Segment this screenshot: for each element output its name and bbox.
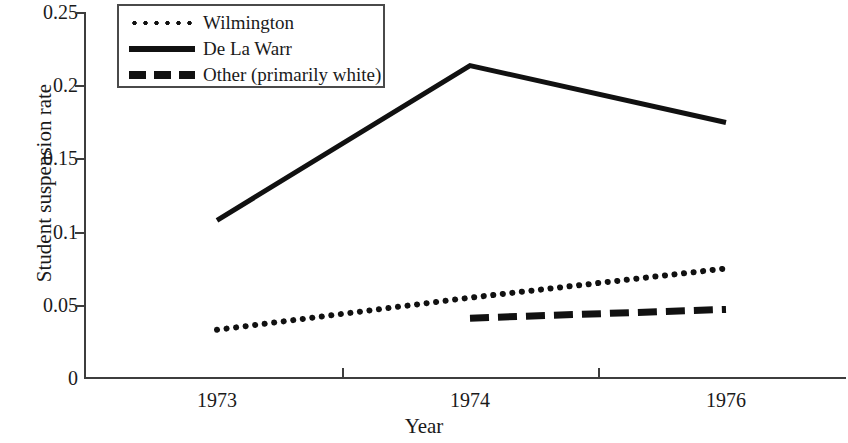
legend-entry-wilmington: Wilmington bbox=[129, 10, 383, 36]
series-line-de-la-warr bbox=[217, 66, 726, 221]
dotted-line-swatch-icon bbox=[129, 17, 195, 29]
legend-entry-de-la-warr: De La Warr bbox=[129, 36, 383, 62]
legend-label-other: Other (primarily white) bbox=[203, 64, 381, 86]
legend-label-de-la-warr: De La Warr bbox=[203, 38, 292, 60]
solid-line-swatch-icon bbox=[129, 46, 195, 52]
chart-figure: Student suspension rate 0.25 0.2 0.15 0.… bbox=[0, 0, 848, 443]
series-line-other bbox=[470, 309, 726, 318]
legend-label-wilmington: Wilmington bbox=[203, 12, 294, 34]
chart-legend: Wilmington De La Warr Other (primarily w… bbox=[117, 4, 385, 88]
dashed-line-swatch-icon bbox=[129, 71, 195, 79]
legend-entry-other: Other (primarily white) bbox=[129, 62, 383, 88]
